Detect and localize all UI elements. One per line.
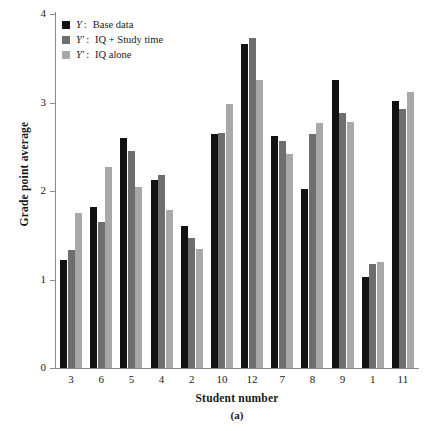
x-tick-label-3: 3: [56, 373, 86, 385]
bar-chart-figure: Grade point average 01234 36542101278911…: [0, 0, 426, 431]
bar-student-2-series-1: [181, 226, 188, 368]
bar-student-7-series-2: [279, 141, 286, 368]
bar-student-12-series-2: [249, 38, 256, 368]
bar-student-6-series-2: [98, 222, 105, 368]
bar-student-10-series-2: [218, 133, 225, 368]
legend-symbol-1: Y: [76, 17, 82, 32]
bar-group-student-6: [90, 14, 112, 368]
bar-group-student-1: [362, 14, 384, 368]
bar-student-9-series-3: [347, 122, 354, 368]
x-tick-label-9: 9: [328, 373, 358, 385]
y-tick-label-1: 1: [28, 274, 46, 285]
legend-label-1: Base data: [93, 17, 134, 32]
legend-item-2: Y′:IQ + Study time: [62, 32, 163, 47]
bar-student-11-series-2: [399, 109, 406, 368]
bar-student-8-series-2: [309, 134, 316, 368]
bar-student-11-series-1: [392, 101, 399, 368]
figure-caption: (a): [55, 409, 419, 421]
bar-student-5-series-1: [120, 138, 127, 368]
x-tick-label-10: 10: [207, 373, 237, 385]
x-axis-title: Student number: [55, 392, 419, 404]
x-tick-label-12: 12: [237, 373, 267, 385]
bar-student-7-series-3: [286, 154, 293, 368]
bar-group-student-8: [301, 14, 323, 368]
bar-student-1-series-1: [362, 277, 369, 368]
y-tick-0: [50, 368, 56, 369]
legend-symbol-2: Y′: [76, 32, 84, 47]
bar-group-student-4: [151, 14, 173, 368]
bar-student-1-series-3: [377, 262, 384, 368]
legend-label-2: IQ + Study time: [95, 32, 163, 47]
x-tick-label-1: 1: [358, 373, 388, 385]
plot-area: [56, 14, 418, 368]
bar-student-5-series-2: [128, 151, 135, 368]
x-axis-line: [55, 368, 419, 369]
bar-group-student-2: [181, 14, 203, 368]
bar-student-3-series-1: [60, 260, 67, 368]
bar-student-2-series-3: [196, 249, 203, 368]
bar-group-student-5: [120, 14, 142, 368]
bar-student-6-series-3: [105, 167, 112, 368]
bar-student-6-series-1: [90, 207, 97, 368]
x-tick-label-2: 2: [177, 373, 207, 385]
bar-student-9-series-1: [332, 80, 339, 368]
legend-item-3: Y′:IQ alone: [62, 47, 163, 62]
legend-swatch-icon-1: [62, 21, 70, 29]
y-tick-label-2: 2: [28, 185, 46, 196]
bar-student-3-series-2: [68, 250, 75, 368]
legend-swatch-icon-2: [62, 36, 70, 44]
bar-student-10-series-1: [211, 134, 218, 368]
x-tick-label-11: 11: [388, 373, 418, 385]
bar-student-12-series-3: [256, 80, 263, 369]
bar-student-10-series-3: [226, 104, 233, 368]
legend-label-3: IQ alone: [95, 47, 131, 62]
y-tick-label-4: 4: [28, 8, 46, 19]
legend-swatch-icon-3: [62, 51, 70, 59]
bar-student-11-series-3: [407, 92, 414, 368]
legend-symbol-3: Y′: [76, 47, 84, 62]
bar-student-8-series-3: [316, 123, 323, 368]
bar-group-student-9: [332, 14, 354, 368]
legend-item-1: Y:Base data: [62, 17, 163, 32]
bar-student-4-series-3: [166, 210, 173, 368]
y-axis-title: Grade point average: [18, 84, 30, 264]
bar-student-4-series-1: [151, 180, 158, 369]
x-tick-label-8: 8: [297, 373, 327, 385]
x-tick-label-6: 6: [86, 373, 116, 385]
x-tick-label-7: 7: [267, 373, 297, 385]
bar-student-9-series-2: [339, 113, 346, 368]
bar-group-student-10: [211, 14, 233, 368]
bar-student-4-series-2: [158, 175, 165, 368]
legend-colon-1: :: [84, 17, 87, 32]
y-tick-label-0: 0: [28, 362, 46, 373]
bar-student-7-series-1: [271, 136, 278, 368]
bar-student-1-series-2: [369, 264, 376, 368]
bar-student-8-series-1: [301, 189, 308, 368]
bar-group-student-11: [392, 14, 414, 368]
bar-student-5-series-3: [135, 187, 142, 368]
bar-group-student-7: [271, 14, 293, 368]
bar-group-student-3: [60, 14, 82, 368]
bar-student-3-series-3: [75, 213, 82, 368]
legend-colon-2: :: [86, 32, 89, 47]
bar-group-student-12: [241, 14, 263, 368]
bar-student-2-series-2: [188, 238, 195, 368]
bar-student-12-series-1: [241, 44, 248, 368]
x-tick-label-5: 5: [116, 373, 146, 385]
legend: Y:Base dataY′:IQ + Study timeY′:IQ alone: [62, 17, 163, 62]
legend-colon-3: :: [86, 47, 89, 62]
x-tick-label-4: 4: [147, 373, 177, 385]
y-tick-label-3: 3: [28, 97, 46, 108]
